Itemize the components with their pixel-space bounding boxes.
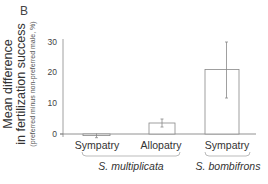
y-tick-label-20: 20 [48, 67, 58, 77]
category-label-sympatry-bombifrons: Sympatry [197, 139, 257, 151]
species-label-multiplicata: S. multiplicata [76, 160, 186, 172]
y-tick-label-30: 30 [48, 37, 58, 47]
bar-bombifrons-sympatry [205, 70, 239, 135]
y-tick-label-10: 10 [48, 98, 58, 108]
brace-multiplicata [82, 152, 180, 156]
category-label-allopatry: Allopatry [131, 139, 191, 151]
y-tick-label-0: 0 [52, 129, 57, 139]
category-label-sympatry-multiplicata: Sympatry [67, 139, 127, 151]
brace-bombifrons [205, 152, 250, 156]
chart-plot-area: 30 20 10 0 [0, 0, 268, 184]
species-label-bombifrons: S. bombifrons [173, 160, 268, 172]
